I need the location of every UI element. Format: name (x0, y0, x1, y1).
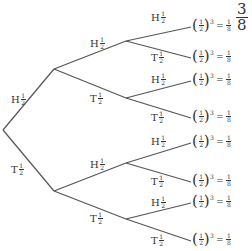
fraction-denominator: 2 (199, 181, 203, 187)
branch-label-tails: T12 (151, 111, 164, 124)
branch-label-heads: H12 (151, 11, 166, 24)
probability-fraction: 12 (159, 234, 164, 247)
outcome-letter: H (90, 39, 99, 49)
outcome-letter: T (90, 94, 97, 104)
outcome-letter: H (151, 13, 160, 23)
result-fraction: 18 (226, 110, 231, 123)
leaf-probability: (12)3=18 (192, 109, 231, 124)
tree-branches (0, 0, 252, 251)
outcome-letter: H (151, 198, 160, 208)
probability-fraction: 12 (161, 135, 166, 148)
fraction-denominator: 8 (227, 240, 231, 246)
branch-label-tails: T12 (90, 92, 103, 105)
equals-sign: = (216, 112, 224, 122)
branch-label-tails: T12 (90, 212, 103, 225)
exponent: 3 (210, 72, 214, 79)
probability-fraction: 12 (100, 158, 105, 171)
open-paren: ( (192, 109, 198, 124)
open-paren: ( (192, 49, 198, 64)
leaf-probability: (12)3=18 (192, 173, 231, 188)
equals-sign: = (216, 197, 224, 207)
fraction-denominator: 2 (19, 170, 23, 176)
fraction-denominator: 2 (98, 219, 102, 225)
outcome-letter: H (151, 75, 160, 85)
close-paren: ) (204, 134, 210, 149)
close-paren: ) (204, 49, 210, 64)
fraction-denominator: 2 (100, 165, 104, 171)
outcome-letter: H (11, 95, 20, 105)
exponent: 3 (210, 232, 214, 239)
fraction-denominator: 8 (227, 181, 231, 187)
fraction-denominator: 8 (227, 57, 231, 63)
open-paren: ( (192, 18, 198, 33)
side-fraction: 3 8 (236, 2, 248, 33)
probability-fraction: 12 (21, 93, 26, 106)
probability-fraction: 12 (159, 111, 164, 124)
close-paren: ) (204, 194, 210, 209)
leaf-probability: (12)3=18 (192, 194, 231, 209)
fraction-denominator: 2 (161, 18, 165, 24)
fraction-denominator: 2 (159, 241, 163, 247)
branch-line (3, 130, 54, 191)
fraction-denominator: 2 (159, 118, 163, 124)
fraction-denominator: 2 (199, 26, 203, 32)
exponent: 3 (210, 18, 214, 25)
result-fraction: 18 (226, 135, 231, 148)
close-paren: ) (204, 173, 210, 188)
outcome-letter: T (151, 236, 158, 246)
outcome-letter: T (151, 113, 158, 123)
fraction-denominator: 2 (161, 142, 165, 148)
result-fraction: 18 (226, 233, 231, 246)
exponent: 3 (210, 134, 214, 141)
probability-fraction: 12 (19, 163, 24, 176)
result-fraction: 18 (226, 174, 231, 187)
outcome-letter: H (90, 160, 99, 170)
side-fraction-denominator: 8 (237, 18, 247, 33)
fraction-denominator: 2 (199, 117, 203, 123)
probability-fraction: 12 (159, 175, 164, 188)
leaf-probability: (12)3=18 (192, 18, 231, 33)
outcome-letter: T (90, 214, 97, 224)
fraction-denominator: 2 (199, 202, 203, 208)
outcome-letter: T (151, 53, 158, 63)
probability-fraction: 12 (98, 212, 103, 225)
fraction-denominator: 8 (227, 117, 231, 123)
fraction-denominator: 2 (199, 80, 203, 86)
branch-label-tails: T12 (11, 163, 24, 176)
probability-tree-diagram: H12T12H12T12H12T12H12T12H12T12H12T12H12T… (0, 0, 252, 251)
branch-label-tails: T12 (151, 51, 164, 64)
exponent: 3 (210, 49, 214, 56)
equals-sign: = (216, 75, 224, 85)
branch-label-tails: T12 (151, 175, 164, 188)
close-paren: ) (204, 72, 210, 87)
fraction-denominator: 2 (159, 182, 163, 188)
equals-sign: = (216, 21, 224, 31)
exponent: 3 (210, 194, 214, 201)
branch-label-heads: H12 (90, 158, 105, 171)
equals-sign: = (216, 176, 224, 186)
open-paren: ( (192, 173, 198, 188)
leaf-probability: (12)3=18 (192, 72, 231, 87)
probability-fraction: 12 (159, 51, 164, 64)
branch-label-heads: H12 (90, 37, 105, 50)
fraction-denominator: 8 (227, 80, 231, 86)
branch-label-tails: T12 (151, 234, 164, 247)
equals-sign: = (216, 52, 224, 62)
open-paren: ( (192, 134, 198, 149)
equals-sign: = (216, 235, 224, 245)
probability-fraction: 12 (98, 92, 103, 105)
fraction-denominator: 2 (100, 44, 104, 50)
fraction-denominator: 2 (98, 99, 102, 105)
close-paren: ) (204, 232, 210, 247)
leaf-probability: (12)3=18 (192, 134, 231, 149)
outcome-letter: T (151, 177, 158, 187)
outcome-letter: H (151, 137, 160, 147)
probability-fraction: 12 (161, 73, 166, 86)
fraction-denominator: 2 (199, 57, 203, 63)
exponent: 3 (210, 173, 214, 180)
exponent: 3 (210, 109, 214, 116)
probability-fraction: 12 (161, 196, 166, 209)
fraction-denominator: 2 (161, 203, 165, 209)
result-fraction: 18 (226, 19, 231, 32)
fraction-denominator: 2 (161, 80, 165, 86)
